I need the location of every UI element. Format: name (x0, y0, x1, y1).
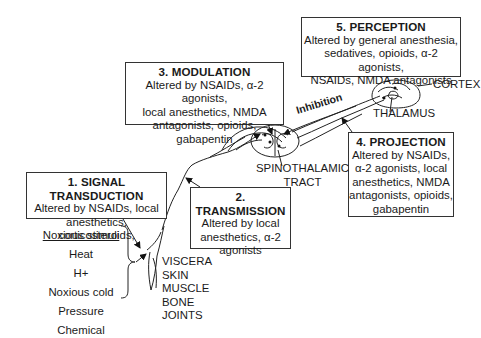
stage-box-projection: 4. PROJECTION Altered by NSAIDs, α-2 ago… (348, 132, 454, 217)
tissue-label: MUSCLE (162, 282, 212, 296)
tissue-label: SKIN (162, 269, 212, 283)
stage-box-perception: 5. PERCEPTION Altered by general anesthe… (301, 17, 461, 77)
stage-box-modulation: 3. MODULATION Altered by NSAIDs, α-2 ago… (125, 62, 284, 125)
stimuli-heading: Noxious stimuli (40, 226, 122, 245)
stage-box-transmission: 2. TRANSMISSION Altered by local anesthe… (190, 187, 291, 249)
stimulus-item: Heat (40, 245, 122, 264)
spinothalamic-tract-label: SPINOTHALAMIC TRACT (256, 162, 349, 189)
stimulus-item: Pressure (40, 302, 122, 321)
stage-description: Altered by NSAIDs, α-2 agonists, local a… (349, 149, 453, 217)
tissue-label: BONE (162, 296, 212, 310)
stage-description: Altered by NSAIDs, α-2 agonists, local a… (126, 79, 283, 147)
tissue-label: VISCERA (162, 255, 212, 269)
thalamus-label: THALAMUS (373, 107, 435, 121)
stage-title: 3. MODULATION (126, 65, 283, 79)
stage-title: 1. SIGNAL TRANSDUCTION (27, 175, 166, 202)
noxious-stimuli-list: Noxious stimuli Heat H+ Noxious cold Pre… (40, 226, 122, 338)
stimulus-item: H+ (40, 264, 122, 283)
stage-title: 2. TRANSMISSION (191, 190, 290, 217)
cortex-label: CORTEX (433, 78, 480, 92)
stage-title: 5. PERCEPTION (302, 20, 460, 34)
tissue-list: VISCERA SKIN MUSCLE BONE JOINTS (162, 255, 212, 323)
stage-box-signal-transduction: 1. SIGNAL TRANSDUCTION Altered by NSAIDs… (26, 172, 167, 219)
tissue-label: JOINTS (162, 309, 212, 323)
stimulus-item: Noxious cold (40, 283, 122, 302)
stage-description: Altered by local anesthetics, α-2 agonis… (191, 217, 290, 258)
stage-title: 4. PROJECTION (349, 135, 453, 149)
stimulus-item: Chemical (40, 321, 122, 338)
